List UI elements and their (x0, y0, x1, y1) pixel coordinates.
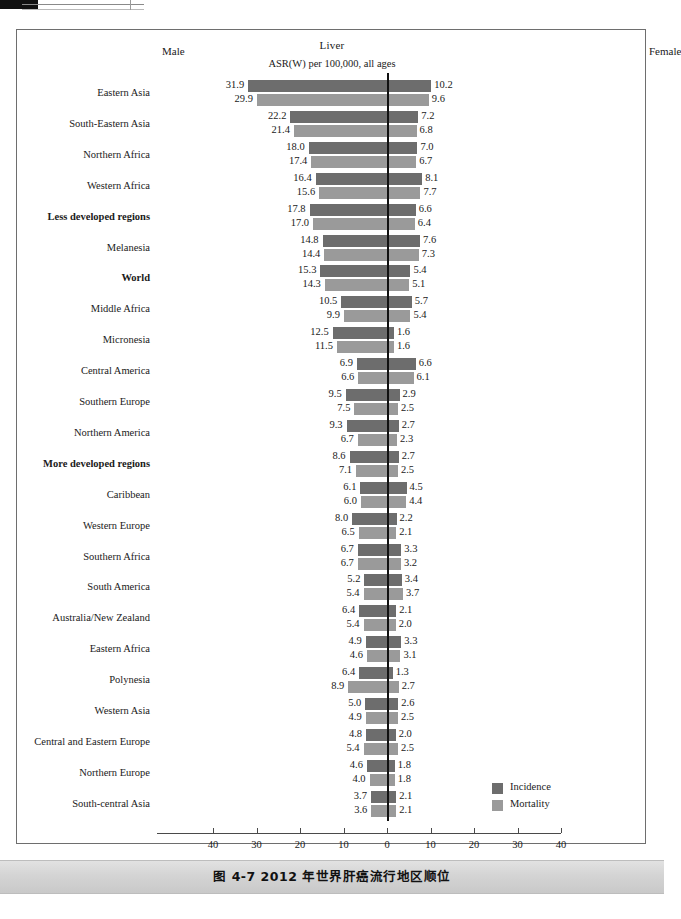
header-tick (130, 0, 131, 10)
male-side-label: Male (162, 45, 185, 57)
chart-subtitle: ASR(W) per 100,000, all ages (17, 58, 647, 69)
chart-title: Liver (17, 39, 647, 51)
header-rule-bottom (22, 9, 144, 10)
figure-frame: Liver ASR(W) per 100,000, all ages (16, 29, 646, 844)
page-header-strip (0, 0, 664, 12)
female-side-label: Female (649, 45, 681, 57)
figure-caption-bar: 图 4-7 2012 年世界肝癌流行地区顺位 (0, 860, 664, 894)
header-rule-top (22, 4, 144, 5)
figure-caption-text: 图 4-7 2012 年世界肝癌流行地区顺位 (0, 861, 664, 893)
